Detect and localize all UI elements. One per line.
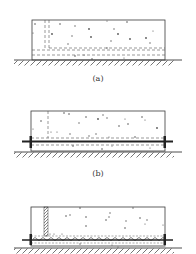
ground-hatch [14,249,174,254]
panel-b [14,111,182,158]
ground-hatch [14,61,174,66]
concrete-slab [32,20,165,60]
ground-hatch [14,153,174,158]
end-plate-right [164,136,167,148]
end-plate-left [30,136,33,148]
panel-a-caption: (a) [92,74,103,83]
panel-c [14,207,182,254]
diagram-canvas: (a) (b) [0,0,196,254]
hatched-vertical-strip [44,207,48,236]
panel-b-caption: (b) [92,169,103,178]
end-plate-left [30,234,33,245]
end-plate-right [164,234,167,245]
panel-a [14,20,182,66]
